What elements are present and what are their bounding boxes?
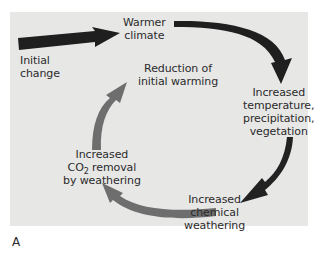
node-temperature-line2: temperature, (243, 99, 314, 112)
arrow-initial-to-warmer (18, 27, 120, 50)
node-co2-line3: by weathering (63, 174, 141, 187)
node-warmer-climate-line2: climate (123, 29, 166, 42)
node-chemical-line2: chemical (184, 206, 245, 219)
co2-prefix: CO (68, 161, 84, 174)
node-chemical-line1: Increased (184, 193, 245, 206)
node-warmer-climate-line1: Warmer (123, 16, 166, 29)
arrow-co2-to-reduction (92, 82, 127, 150)
node-co2-line2: CO2 removal (63, 161, 141, 174)
node-temperature-line4: vegetation (243, 125, 314, 138)
node-increased-temperature: Increased temperature, precipitation, ve… (243, 86, 314, 138)
arrow-temperature-to-chemical (240, 137, 293, 203)
node-increased-co2-removal: Increased CO2 removal by weathering (63, 148, 141, 187)
node-initial-change-line1: Initial (20, 54, 60, 67)
node-chemical-line3: weathering (184, 219, 245, 232)
node-initial-change-line2: change (20, 67, 60, 80)
co2-suffix: removal (89, 161, 137, 174)
node-co2-line1: Increased (63, 148, 141, 161)
node-initial-change: Initial change (20, 54, 60, 80)
figure-label: A (12, 235, 20, 249)
node-warmer-climate: Warmer climate (123, 16, 166, 42)
node-reduction-line2: initial warming (138, 75, 218, 88)
node-temperature-line1: Increased (243, 86, 314, 99)
node-reduction-line1: Reduction of (138, 62, 218, 75)
node-reduction-of-warming: Reduction of initial warming (138, 62, 218, 88)
node-increased-chemical-weathering: Increased chemical weathering (184, 193, 245, 232)
node-temperature-line3: precipitation, (243, 112, 314, 125)
